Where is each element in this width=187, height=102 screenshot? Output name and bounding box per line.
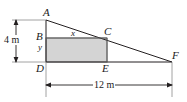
vertex-label-C: C: [104, 26, 111, 37]
vertex-label-F: F: [172, 50, 179, 61]
shaded-rectangle: [46, 38, 107, 62]
geometry-figure: A B C D E F x y 4 m 12 m: [0, 0, 187, 102]
side-label-x: x: [71, 29, 75, 38]
vertex-label-B: B: [36, 31, 43, 42]
dimension-label-base: 12 m: [93, 80, 115, 90]
vertex-label-A: A: [43, 7, 50, 18]
vertex-label-E: E: [102, 63, 109, 74]
side-label-y: y: [38, 43, 42, 52]
vertex-label-D: D: [36, 63, 44, 74]
dimension-label-height: 4 m: [3, 35, 20, 45]
